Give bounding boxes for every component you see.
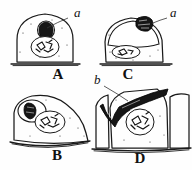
figure-c-apical-body [136,16,153,31]
figure-b-inclusion-body [24,103,36,119]
figure-a-label: A [53,66,64,82]
figure-d-neighbour-right [170,94,189,148]
figure-d-label: D [135,150,146,166]
figure-c-label: C [123,66,134,82]
annotation-a-right-label: a [170,5,177,20]
illustration-plate: A a [0,0,192,170]
figure-d: D [92,89,191,166]
figure-a: A [11,14,80,82]
figure-c: C [100,16,172,82]
figure-d-neighbour-left [96,95,109,148]
annotation-a-left-label: a [74,5,81,20]
figure-b-label: B [52,147,62,163]
annotation-b-label: b [94,72,101,87]
plate-drawing: A a [0,0,192,170]
annotation-a-right: a [153,5,177,23]
figure-b: B [10,95,90,163]
annotation-a-right-leader [153,18,167,23]
